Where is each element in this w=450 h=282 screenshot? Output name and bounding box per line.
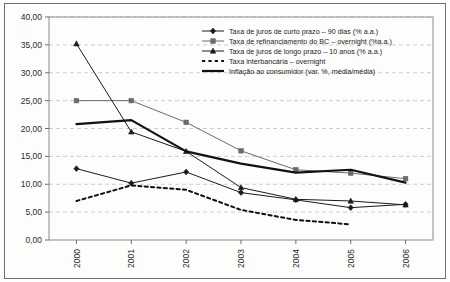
legend-label: Taxa interbancária – overnight — [229, 57, 325, 66]
data-point — [74, 41, 79, 46]
legend: Taxa de juros de curto prazo – 90 dias (… — [202, 27, 392, 76]
y-tick-label: 0,00 — [25, 235, 42, 245]
data-point — [184, 169, 189, 175]
y-tick-label: 10,00 — [21, 179, 43, 189]
data-point — [238, 190, 243, 196]
legend-marker — [210, 28, 215, 34]
y-tick-label: 5,00 — [25, 207, 42, 217]
legend-label: Taxa de refinanciamento do BC – overnigh… — [229, 37, 392, 46]
chart-figure: 0,005,0010,0015,0020,0025,0030,0035,0040… — [0, 0, 450, 282]
data-point — [348, 171, 353, 176]
data-point — [74, 166, 79, 172]
y-axis: 0,005,0010,0015,0020,0025,0030,0035,0040… — [21, 12, 49, 245]
legend-label: Taxa de juros de curto prazo – 90 dias (… — [229, 27, 378, 36]
x-tick-label: 2003 — [236, 249, 246, 268]
y-tick-label: 35,00 — [21, 40, 43, 50]
legend-item: Taxa de juros de curto prazo – 90 dias (… — [202, 27, 378, 36]
data-point — [239, 149, 244, 154]
y-tick-label: 25,00 — [21, 96, 43, 106]
data-point — [129, 98, 134, 103]
data-point — [238, 185, 243, 190]
x-axis: 2000200120022003200420052006 — [72, 240, 411, 268]
legend-item: Taxa de refinanciamento do BC – overnigh… — [202, 37, 392, 46]
legend-item: Taxa interbancária – overnight — [202, 57, 325, 66]
y-tick-label: 40,00 — [21, 12, 43, 22]
data-point — [184, 120, 189, 125]
x-tick-label: 2001 — [126, 249, 136, 268]
legend-marker — [211, 39, 216, 44]
y-tick-label: 15,00 — [21, 151, 43, 161]
data-point — [348, 205, 353, 211]
legend-item: Inflação ao consumidor (var. %, média/mé… — [202, 67, 375, 76]
legend-label: Inflação ao consumidor (var. %, média/mé… — [229, 67, 375, 76]
x-tick-label: 2006 — [401, 249, 411, 268]
data-point — [74, 98, 79, 103]
line-chart: 0,005,0010,0015,0020,0025,0030,0035,0040… — [0, 0, 450, 282]
series-3 — [76, 185, 350, 224]
x-tick-label: 2005 — [346, 249, 356, 268]
legend-item: Taxa de juros de longo prazo – 10 anos (… — [202, 47, 382, 56]
x-tick-label: 2004 — [291, 249, 301, 268]
data-point — [403, 176, 408, 181]
y-tick-label: 20,00 — [21, 124, 43, 134]
series-1 — [74, 98, 408, 181]
y-tick-label: 30,00 — [21, 68, 43, 78]
legend-label: Taxa de juros de longo prazo – 10 anos (… — [229, 47, 382, 56]
x-tick-label: 2002 — [181, 249, 191, 268]
x-tick-label: 2000 — [72, 249, 82, 268]
